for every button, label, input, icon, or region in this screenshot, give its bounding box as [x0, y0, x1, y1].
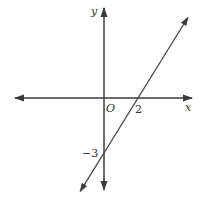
y-axis-label: y: [90, 5, 98, 18]
x-axis-label: x: [185, 101, 192, 114]
origin-label: O: [106, 102, 115, 115]
coordinate-diagram: y x O 2 −3: [0, 0, 203, 199]
y-intercept-label: −3: [82, 147, 98, 160]
x-intercept-label: 2: [135, 103, 142, 116]
